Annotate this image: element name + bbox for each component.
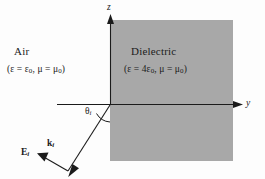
air-permeability-subscript: 0 <box>58 67 62 75</box>
y-axis-label: y <box>246 99 250 109</box>
dielectric-eq-permeability: , μ = μ <box>154 64 180 74</box>
k-vector-label: ki <box>47 139 54 149</box>
physics-diagram: Air (ε = ε0, μ = μ0) Dielectric (ε = 4ε0… <box>0 0 265 179</box>
e-field-vector-line <box>37 153 68 172</box>
e-vector-label: Ei <box>21 148 29 158</box>
z-axis-label: z <box>107 3 111 13</box>
dielectric-eq-permittivity: ε = 4ε <box>127 64 150 74</box>
k-subscript: i <box>52 141 54 149</box>
air-region-formula: (ε = ε0, μ = μ0) <box>7 65 65 75</box>
diagram-canvas <box>0 0 265 179</box>
dielectric-region-label: Dielectric <box>131 46 176 57</box>
air-eq-permeability: , μ = μ <box>32 64 58 74</box>
theta-subscript: i <box>90 109 92 117</box>
dielectric-region-formula: (ε = 4ε0, μ = μ0) <box>124 65 187 75</box>
dielectric-region-rect <box>110 20 233 161</box>
angle-of-incidence-label: θi <box>85 107 92 117</box>
e-subscript: i <box>27 150 29 158</box>
dielectric-permeability-subscript: 0 <box>180 67 184 75</box>
air-eq-permittivity: ε = ε <box>10 64 29 74</box>
air-region-label: Air <box>14 46 29 57</box>
